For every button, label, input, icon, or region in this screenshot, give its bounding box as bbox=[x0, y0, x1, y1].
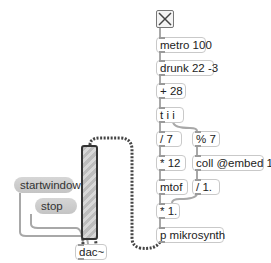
x-mark-icon bbox=[157, 11, 173, 27]
coll-object[interactable]: coll @embed 1 bbox=[192, 155, 264, 171]
plus-object[interactable]: + 28 bbox=[156, 83, 186, 99]
modulo-7-object[interactable]: % 7 bbox=[192, 131, 220, 147]
dac-object[interactable]: dac~ bbox=[75, 244, 107, 260]
drunk-object[interactable]: drunk 22 -3 bbox=[156, 60, 214, 76]
divide-1-object[interactable]: / 1. bbox=[192, 179, 220, 195]
mtof-object[interactable]: mtof bbox=[156, 179, 188, 195]
metro-object[interactable]: metro 100 bbox=[156, 37, 206, 53]
gain-slider[interactable] bbox=[81, 145, 98, 240]
max-patcher-canvas[interactable]: metro 100 drunk 22 -3 + 28 t i i / 7 % 7… bbox=[0, 0, 271, 263]
toggle-button[interactable] bbox=[156, 10, 174, 28]
divide-7-object[interactable]: / 7 bbox=[156, 131, 182, 147]
multiply-12-object[interactable]: * 12 bbox=[156, 155, 186, 171]
trigger-object[interactable]: t i i bbox=[156, 107, 184, 123]
startwindow-message[interactable]: startwindow bbox=[14, 177, 74, 193]
stop-message[interactable]: stop bbox=[35, 198, 77, 214]
patch-cords bbox=[0, 0, 271, 263]
multiply-1-object[interactable]: * 1. bbox=[156, 203, 180, 219]
mikrosynth-subpatch[interactable]: p mikrosynth bbox=[156, 227, 224, 243]
